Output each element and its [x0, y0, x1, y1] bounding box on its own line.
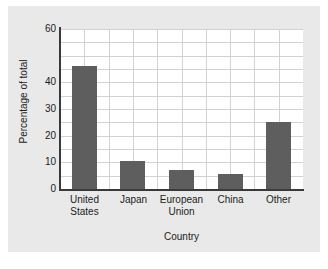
y-axis-tick-label: 0 [34, 184, 56, 194]
gridline-vertical [157, 29, 158, 189]
x-axis-category-label: EuropeanUnion [157, 194, 206, 218]
y-axis-tick-labels: 60403020100 [30, 0, 56, 269]
x-axis-title: Country [60, 231, 303, 242]
y-axis-tick-label: 30 [34, 104, 56, 114]
y-axis-tick-label: 40 [34, 77, 56, 87]
bar [266, 122, 291, 189]
gridline-vertical [254, 29, 255, 189]
gridline-vertical [182, 29, 183, 189]
x-axis-category-label-line: China [206, 194, 255, 206]
x-axis-category-label: UnitedStates [60, 194, 109, 218]
x-axis-category-label-line: Other [254, 194, 303, 206]
x-axis-category-label-line: United [60, 194, 109, 206]
bar [218, 174, 243, 189]
gridline-vertical [230, 29, 231, 189]
gridline-vertical [109, 29, 110, 189]
x-axis-category-label-line: States [60, 206, 109, 218]
y-axis-title: Percentage of total [18, 37, 29, 167]
x-axis-category-label-line: European [157, 194, 206, 206]
bar [169, 170, 194, 189]
y-axis-line [59, 27, 61, 191]
y-axis-tick-label: 60 [34, 24, 56, 34]
y-axis-tick-label: 10 [34, 157, 56, 167]
x-axis-line [59, 189, 304, 191]
bar [120, 161, 145, 189]
bar [72, 66, 97, 189]
y-axis-tick-label: 20 [34, 131, 56, 141]
gridline-vertical [206, 29, 207, 189]
x-axis-category-label: China [206, 194, 255, 206]
x-axis-category-label-line: Japan [109, 194, 158, 206]
x-axis-category-label-line: Union [157, 206, 206, 218]
figure-container: 60403020100 Percentage of total UnitedSt… [0, 0, 328, 269]
x-axis-category-label: Japan [109, 194, 158, 206]
x-axis-category-label: Other [254, 194, 303, 206]
